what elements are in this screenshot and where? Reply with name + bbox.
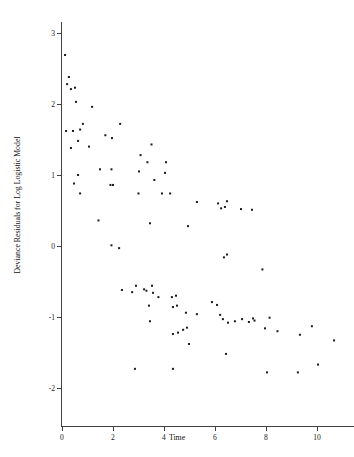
x-tick-label: 8 bbox=[264, 433, 268, 442]
data-point bbox=[188, 343, 190, 345]
data-point bbox=[70, 88, 72, 90]
data-point bbox=[112, 184, 114, 186]
data-point bbox=[164, 172, 166, 174]
data-point bbox=[134, 368, 136, 370]
data-point bbox=[143, 288, 145, 290]
y-axis-title: Deviance Residuals for Log Logistic Mode… bbox=[13, 136, 22, 274]
data-point bbox=[220, 207, 222, 209]
x-axis-title: Time bbox=[169, 433, 186, 442]
data-point bbox=[172, 306, 174, 308]
data-points-group bbox=[64, 54, 335, 373]
data-point bbox=[121, 289, 123, 291]
data-point bbox=[224, 206, 226, 208]
data-point bbox=[135, 285, 137, 287]
data-point bbox=[140, 154, 142, 156]
data-point bbox=[276, 330, 278, 332]
data-point bbox=[152, 292, 154, 294]
data-point bbox=[169, 192, 171, 194]
data-point bbox=[317, 364, 319, 366]
data-point bbox=[175, 295, 177, 297]
data-point bbox=[138, 192, 140, 194]
data-point bbox=[70, 147, 72, 149]
data-point bbox=[211, 301, 213, 303]
scatter-plot-figure: 3210-1-20246810 Time Deviance Residuals … bbox=[0, 0, 354, 457]
data-point bbox=[157, 296, 159, 298]
ticks-group bbox=[57, 33, 317, 431]
data-point bbox=[161, 192, 163, 194]
data-point bbox=[151, 143, 153, 145]
data-point bbox=[241, 318, 243, 320]
y-tick-label: 2 bbox=[51, 100, 55, 109]
data-point bbox=[77, 174, 79, 176]
data-point bbox=[82, 123, 84, 125]
data-point bbox=[111, 137, 113, 139]
data-point bbox=[138, 170, 140, 172]
data-point bbox=[149, 222, 151, 224]
y-tick-label: 1 bbox=[51, 171, 55, 180]
data-point bbox=[148, 305, 150, 307]
data-point bbox=[119, 123, 121, 125]
data-point bbox=[99, 168, 101, 170]
data-point bbox=[333, 339, 335, 341]
data-point bbox=[110, 168, 112, 170]
data-point bbox=[222, 318, 224, 320]
data-point bbox=[252, 317, 254, 319]
y-tick-label: 0 bbox=[51, 242, 55, 251]
data-point bbox=[227, 322, 229, 324]
data-point bbox=[131, 291, 133, 293]
y-tick-label: 3 bbox=[51, 29, 55, 38]
data-point bbox=[234, 320, 236, 322]
data-point bbox=[269, 317, 271, 319]
data-point bbox=[254, 320, 256, 322]
data-point bbox=[66, 83, 68, 85]
data-point bbox=[217, 202, 219, 204]
data-point bbox=[110, 244, 112, 246]
data-point bbox=[97, 219, 99, 221]
data-point bbox=[88, 146, 90, 148]
data-point bbox=[165, 161, 167, 163]
data-point bbox=[74, 87, 76, 89]
data-point bbox=[91, 106, 93, 108]
data-point bbox=[149, 320, 151, 322]
axes-group bbox=[61, 22, 354, 427]
data-point bbox=[72, 130, 74, 132]
data-point bbox=[182, 329, 184, 331]
data-point bbox=[251, 209, 253, 211]
tick-labels-group: 3210-1-20246810 bbox=[49, 29, 321, 442]
data-point bbox=[109, 184, 111, 186]
data-point bbox=[196, 201, 198, 203]
x-tick-label: 4 bbox=[162, 433, 166, 442]
data-point bbox=[65, 130, 67, 132]
data-point bbox=[64, 54, 66, 56]
data-point bbox=[226, 200, 228, 202]
data-point bbox=[79, 192, 81, 194]
data-point bbox=[297, 371, 299, 373]
data-point bbox=[172, 333, 174, 335]
data-point bbox=[216, 304, 218, 306]
data-point bbox=[248, 321, 250, 323]
data-point bbox=[118, 247, 120, 249]
data-point bbox=[223, 256, 225, 258]
data-point bbox=[68, 76, 70, 78]
y-tick-label: -1 bbox=[49, 313, 56, 322]
data-point bbox=[75, 101, 77, 103]
data-point bbox=[225, 353, 227, 355]
data-point bbox=[77, 140, 79, 142]
data-point bbox=[73, 183, 75, 185]
x-tick-label: 6 bbox=[213, 433, 217, 442]
x-tick-label: 0 bbox=[60, 433, 64, 442]
data-point bbox=[240, 208, 242, 210]
data-point bbox=[261, 268, 263, 270]
data-point bbox=[171, 296, 173, 298]
data-point bbox=[79, 129, 81, 131]
data-point bbox=[196, 313, 198, 315]
data-point bbox=[299, 334, 301, 336]
data-point bbox=[151, 285, 153, 287]
data-point bbox=[266, 371, 268, 373]
x-tick-label: 10 bbox=[313, 433, 321, 442]
data-point bbox=[153, 179, 155, 181]
data-point bbox=[146, 161, 148, 163]
data-point bbox=[219, 314, 221, 316]
plot-canvas: 3210-1-20246810 Time Deviance Residuals … bbox=[0, 0, 354, 457]
x-tick-label: 2 bbox=[111, 433, 115, 442]
